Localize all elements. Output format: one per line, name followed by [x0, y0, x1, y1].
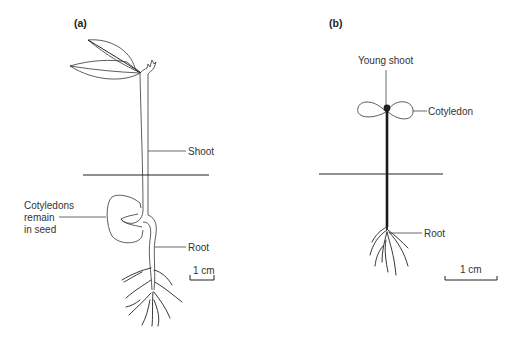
primary-root [143, 215, 156, 290]
shoot-tip-icon [140, 60, 156, 74]
label-cotyledons-line3: in seed [24, 224, 56, 235]
label-root-a: Root [188, 242, 209, 253]
label-shoot: Shoot [188, 146, 214, 157]
label-cotyledons-line1: Cotyledons [24, 200, 74, 211]
panel-a: (a) [24, 17, 215, 326]
label-root-b: Root [424, 228, 445, 239]
panel-b: (b) Young shoot Cotyledon Root [319, 17, 497, 280]
label-cotyledons-line2: remain [24, 212, 55, 223]
label-young-shoot: Young shoot [358, 55, 413, 66]
shoot-stem [138, 74, 148, 221]
roots-b-icon [370, 227, 408, 275]
panel-b-tag: (b) [329, 17, 342, 29]
scale-bar-a: 1 cm [190, 265, 215, 280]
panel-a-tag: (a) [74, 17, 87, 29]
seed-icon [107, 195, 143, 243]
germination-diagram: (a) [0, 0, 521, 339]
leaves-icon [70, 40, 141, 79]
svg-text:1 cm: 1 cm [460, 264, 482, 275]
label-cotyledon: Cotyledon [428, 106, 473, 117]
svg-text:1 cm: 1 cm [193, 265, 215, 276]
cotyledons-icon [358, 102, 413, 119]
scale-bar-b: 1 cm [445, 264, 497, 280]
lateral-roots-icon [122, 268, 182, 326]
